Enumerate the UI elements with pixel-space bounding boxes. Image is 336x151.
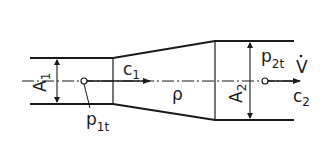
diagram-canvas: A1 c1 ρ A2 p2t V c2 p1t (0, 0, 336, 151)
label-c1: c1 (123, 59, 140, 82)
label-p1t: p1t (86, 109, 109, 134)
label-rho: ρ (172, 84, 183, 104)
diffuser-diagram: A1 c1 ρ A2 p2t V c2 p1t (0, 0, 336, 151)
svg-text:V: V (296, 57, 308, 77)
svg-text:A2: A2 (226, 84, 249, 103)
label-c2: c2 (293, 86, 310, 109)
p2t-measurement-point (262, 78, 268, 84)
label-a1: A1 (30, 73, 53, 92)
p1t-measurement-point (81, 78, 87, 84)
svg-text:A1: A1 (30, 73, 53, 92)
label-a2: A2 (226, 84, 249, 103)
label-p2t: p2t (261, 46, 284, 71)
label-volume-flow: V (296, 55, 308, 77)
